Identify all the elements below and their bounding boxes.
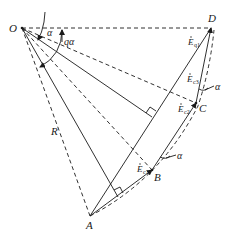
alpha-arc-top (38, 12, 45, 40)
label-q-alpha: qα (64, 36, 75, 47)
point-O (21, 27, 24, 30)
label-Ec3: E c3 (186, 73, 199, 85)
dashed-line-OA-radius (22, 28, 90, 216)
solid-line-O-perp-lower (22, 28, 118, 197)
label-Eq1: E q1 (187, 36, 200, 48)
label-alpha-top: α (47, 27, 53, 38)
svg-text:E: E (187, 37, 194, 47)
label-B: B (154, 171, 161, 183)
label-O: O (9, 22, 17, 34)
svg-text:q1: q1 (194, 42, 200, 48)
label-R: R (50, 125, 58, 137)
svg-text:E: E (177, 104, 184, 114)
point-C (195, 102, 198, 105)
solid-line-O-perp-upper (22, 28, 152, 117)
label-D: D (207, 12, 216, 24)
svg-text:c3: c3 (193, 79, 199, 85)
svg-text:E: E (186, 74, 193, 84)
label-alpha-B: α (177, 150, 183, 161)
label-C: C (199, 102, 207, 114)
dashed-line-OB (22, 28, 152, 170)
diagram-canvas: O D C B A R α qα α α E q1 E c3 E c2 E c1 (0, 0, 234, 232)
right-angle-upper (146, 107, 156, 113)
alpha-tick-B (166, 155, 176, 158)
label-Ec1: E c1 (136, 163, 149, 175)
label-alpha-C: α (215, 81, 221, 92)
phasor-Ec1 (90, 170, 152, 216)
phasor-diagram: O D C B A R α qα α α E q1 E c3 E c2 E c1 (0, 0, 234, 232)
svg-text:c2: c2 (184, 109, 190, 115)
svg-text:c1: c1 (143, 169, 149, 175)
label-A: A (85, 219, 93, 231)
alpha-tick-C (205, 86, 214, 90)
svg-text:E: E (136, 164, 143, 174)
label-Ec2: E c2 (177, 103, 190, 115)
point-B (151, 169, 154, 172)
